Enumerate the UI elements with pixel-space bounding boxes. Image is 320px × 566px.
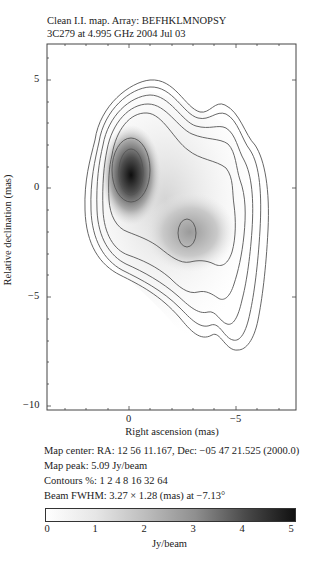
beam-info: Beam FWHM: 3.27 × 1.28 (mas) at −7.13° xyxy=(44,488,225,503)
colorbar xyxy=(45,508,296,522)
x-tick-neg5: −5 xyxy=(230,413,241,424)
y-tick-5: 5 xyxy=(34,73,39,84)
x-axis-label: Right ascension (mas) xyxy=(47,426,297,437)
colorbar-unit-label: Jy/beam xyxy=(45,538,294,549)
y-tick-neg5: −5 xyxy=(28,290,39,301)
colorbar-tick-3: 3 xyxy=(190,523,195,534)
contours-info: Contours %: 1 2 4 8 16 32 64 xyxy=(44,473,168,488)
map-center-info: Map center: RA: 12 56 11.167, Dec: −05 4… xyxy=(44,443,299,458)
colorbar-tick-1: 1 xyxy=(92,523,97,534)
colorbar-tick-0: 0 xyxy=(44,523,49,534)
colorbar-tick-5: 5 xyxy=(288,523,293,534)
y-axis-label: Relative declination (mas) xyxy=(2,160,13,300)
y-tick-0: 0 xyxy=(34,181,39,192)
x-tick-0: 0 xyxy=(126,413,131,424)
colorbar-tick-2: 2 xyxy=(141,523,146,534)
y-tick-neg10: −10 xyxy=(23,399,39,410)
map-peak-info: Map peak: 5.09 Jy/beam xyxy=(44,458,147,473)
colorbar-tick-4: 4 xyxy=(239,523,244,534)
